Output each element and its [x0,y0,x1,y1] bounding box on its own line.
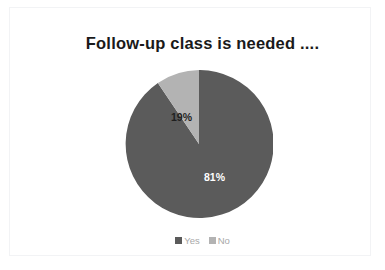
legend-label-no: No [218,236,230,246]
pie-slice-label-no: 19% [171,111,192,123]
chart-legend: Yes No [10,236,385,246]
legend-swatch-no-icon [209,237,216,244]
legend-swatch-yes-icon [175,237,182,244]
pie-slice-yes[interactable] [126,70,273,218]
slide-canvas: Follow-up class is needed .... 19% 81% Y… [0,0,385,270]
pie-slice-label-yes: 81% [204,171,225,183]
pie-chart-svg [125,70,273,218]
legend-label-yes: Yes [184,236,200,246]
chart-title: Follow-up class is needed .... [10,34,385,53]
legend-item-yes[interactable]: Yes [175,236,200,246]
slide-frame: Follow-up class is needed .... 19% 81% Y… [9,7,371,256]
legend-item-no[interactable]: No [209,236,230,246]
pie-chart: 19% 81% [125,70,273,218]
